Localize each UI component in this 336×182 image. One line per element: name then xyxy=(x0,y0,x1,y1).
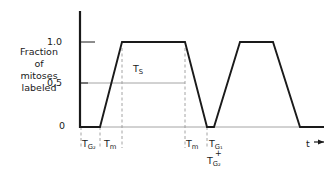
annotation-tg2-second-base: T xyxy=(207,155,213,166)
annotation-tm-first-subscript: m xyxy=(110,143,117,151)
annotation-tg2-second-subscript: G₂ xyxy=(213,160,221,168)
annotation-tm-second: Tm xyxy=(186,138,198,151)
annotation-tm-second-subscript: m xyxy=(192,143,199,151)
labeled-mitoses-curve xyxy=(80,42,324,127)
annotation-tg2-second: TG₂ xyxy=(207,155,221,168)
x-axis-label: t xyxy=(306,138,310,149)
y-tick-label-zero: 0 xyxy=(59,120,65,131)
annotation-tg2-first-subscript: G₂ xyxy=(88,143,96,151)
annotation-tg2-first: TG₂ xyxy=(82,138,96,151)
annotation-tm-first: Tm xyxy=(104,138,116,151)
y-axis-label-line-1: Fraction xyxy=(6,46,72,58)
annotation-ts-subscript: S xyxy=(139,68,143,76)
annotation-tm-first-base: T xyxy=(104,138,110,149)
x-axis-arrow-icon xyxy=(314,139,324,144)
y-tick-label-half: 0.5 xyxy=(47,77,62,88)
dashed-guides xyxy=(81,48,207,148)
annotation-ts: TS xyxy=(133,63,143,76)
y-tick-label-one: 1.0 xyxy=(47,36,62,47)
annotation-tg2-first-base: T xyxy=(82,138,88,149)
annotation-tg1-base: T xyxy=(209,138,215,149)
labeled-mitoses-figure: Fraction of mitoses labeled 1.0 0.5 0 TS… xyxy=(0,0,336,182)
y-axis-label-line-2: of xyxy=(6,58,72,70)
annotation-tm-second-base: T xyxy=(186,138,192,149)
annotation-ts-base: T xyxy=(133,63,139,74)
